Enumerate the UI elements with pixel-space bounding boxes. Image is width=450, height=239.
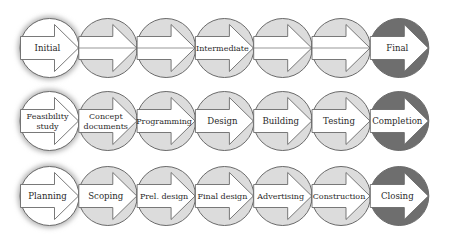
phase-step: Conceptdocuments [78, 92, 137, 151]
phase-label-line: Initial [35, 43, 61, 53]
phase-step: Building [253, 92, 312, 151]
phase-diagram: InitialIntermediateFinalFeasibilitystudy… [0, 0, 450, 239]
phase-label-line: study [36, 122, 59, 131]
phase-label-line: Feasibility [27, 112, 69, 121]
phase-label: Conceptdocuments [84, 112, 128, 131]
phase-label: Completion [372, 116, 423, 126]
phase-step: Construction [312, 167, 371, 226]
phase-label: Initial [35, 43, 61, 53]
phase-step: Initial [18, 16, 82, 80]
phase-label-line: Advertising [256, 192, 304, 201]
phase-label: Testing [323, 116, 355, 126]
phase-step: Design [195, 92, 254, 151]
phase-label-line: Final design [197, 192, 247, 201]
phase-label-line: Final [386, 43, 408, 53]
phase-step [137, 19, 196, 78]
phase-label-line: Scoping [88, 191, 124, 201]
phase-label: Prel. design [140, 192, 188, 201]
phase-step: Scoping [78, 167, 137, 226]
phase-label-line: Testing [323, 116, 355, 126]
phase-step: Advertising [253, 167, 312, 226]
phase-step: Completion [370, 92, 429, 151]
phase-step: Testing [312, 92, 371, 151]
phase-label-line: Planning [28, 191, 67, 201]
phase-step: Final design [195, 167, 254, 226]
phase-step: Programming [136, 92, 195, 151]
phase-label-line: Programming [136, 117, 192, 126]
phase-label-line: documents [84, 122, 128, 131]
phase-row-construction-phases: PlanningScopingPrel. designFinal designA… [18, 164, 429, 228]
phase-label-line: Concept [89, 112, 123, 121]
phase-row-project-phases: FeasibilitystudyConceptdocumentsProgramm… [18, 89, 429, 153]
phase-step: Closing [370, 167, 429, 226]
phase-step: Prel. design [137, 167, 196, 226]
phase-label: Design [207, 116, 238, 126]
phase-label: Scoping [88, 191, 124, 201]
phase-label: Planning [28, 191, 67, 201]
phase-row-generic-phases: InitialIntermediateFinal [18, 16, 429, 80]
phase-step: Intermediate [195, 19, 254, 78]
phase-label: Final [386, 43, 408, 53]
phase-step: Feasibilitystudy [18, 89, 82, 153]
phase-step [253, 19, 312, 78]
phase-label-line: Design [207, 116, 238, 126]
phase-label: Intermediate [196, 44, 249, 53]
phase-label: Closing [381, 191, 414, 201]
phase-step: Final [370, 19, 429, 78]
phase-label: Programming [136, 117, 192, 126]
phase-label: Construction [313, 192, 366, 201]
phase-label: Final design [197, 192, 247, 201]
phase-label: Building [262, 116, 299, 126]
phase-step: Planning [18, 164, 82, 228]
phase-label-line: Building [262, 116, 299, 126]
phase-label-line: Intermediate [196, 44, 249, 53]
phase-step [78, 19, 137, 78]
phase-label-line: Construction [313, 192, 366, 201]
phase-label-line: Completion [372, 116, 423, 126]
phase-label: Advertising [256, 192, 304, 201]
phase-step [312, 19, 371, 78]
phase-label-line: Prel. design [140, 192, 188, 201]
phase-label-line: Closing [381, 191, 414, 201]
